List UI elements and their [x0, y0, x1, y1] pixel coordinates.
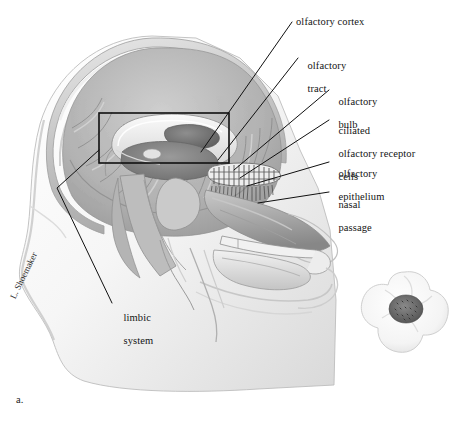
label-olfactory-tract-line2: tract — [307, 83, 326, 94]
label-limbic-system-line1: limbic — [123, 312, 150, 323]
flower-inset — [361, 272, 448, 353]
label-nasal-passage-line1: nasal — [338, 199, 360, 210]
label-olfactory-epithelium-line1: olfactory — [338, 168, 377, 179]
label-limbic-system: limbic system — [118, 300, 153, 346]
label-nasal-passage-line2: passage — [338, 222, 371, 233]
anatomical-illustration — [0, 0, 459, 426]
label-ciliated-line1: ciliated — [338, 125, 370, 136]
label-olfactory-cortex: olfactory cortex — [296, 16, 364, 28]
figure-id-label: a. — [16, 394, 23, 405]
label-olfactory-bulb-line1: olfactory — [338, 96, 377, 107]
label-nasal-passage: nasal passage — [333, 187, 372, 233]
label-olfactory-tract-line1: olfactory — [307, 60, 346, 71]
label-limbic-system-line2: system — [123, 335, 153, 346]
olfactory-bulb — [208, 163, 281, 186]
